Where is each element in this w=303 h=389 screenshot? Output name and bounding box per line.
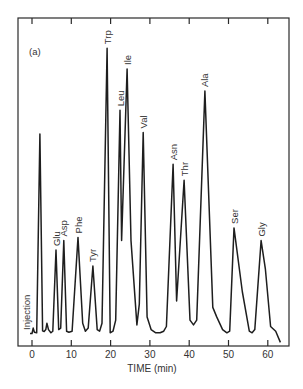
chromatogram-trace	[30, 48, 280, 342]
peak-label-asn: Asn	[168, 144, 179, 160]
x-tick-label: 60	[262, 349, 274, 360]
x-tick-label: 30	[144, 349, 156, 360]
x-tick-label: 50	[223, 349, 235, 360]
peak-label-thr: Thr	[179, 162, 190, 176]
peak-label-val: Val	[138, 115, 149, 128]
peak-label-ile: Ile	[122, 55, 133, 65]
chromatogram-chart: 0102030405060 GluAspPheTyrTrpLeuIleValAs…	[0, 0, 303, 389]
x-tick-label: 20	[105, 349, 117, 360]
peak-label-ser: Ser	[229, 209, 240, 224]
x-axis-tick-labels: 0102030405060	[29, 349, 274, 360]
peak-label-trp: Trp	[102, 30, 113, 44]
panel-label: (a)	[29, 46, 41, 57]
x-tick-label: 40	[184, 349, 196, 360]
x-axis-ticks	[32, 18, 268, 346]
peak-label-ala: Ala	[199, 73, 210, 87]
peak-label-tyr: Tyr	[87, 249, 98, 262]
peak-label-gly: Gly	[256, 222, 267, 237]
injection-label: Injection	[21, 295, 32, 330]
peak-label-phe: Phe	[73, 216, 84, 233]
x-axis-label: TIME (min)	[127, 363, 176, 374]
plot-frame	[18, 18, 289, 346]
x-tick-label: 10	[66, 349, 78, 360]
peak-label-leu: Leu	[115, 90, 126, 106]
peak-label-asp: Asp	[58, 220, 69, 236]
x-tick-label: 0	[29, 349, 35, 360]
